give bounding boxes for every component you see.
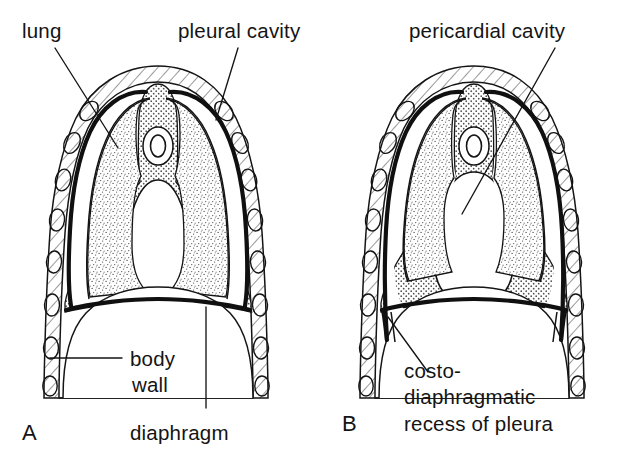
- label-recess-line2: diaphragmatic: [404, 385, 535, 408]
- label-body-wall-line2: wall: [131, 373, 168, 396]
- great-vessel-ring-b: [459, 127, 489, 165]
- label-lung: lung: [22, 19, 62, 42]
- panel-letter-a: A: [22, 420, 37, 445]
- thorax-section-diagram: lung pleural cavity pericardial cavity b…: [0, 0, 633, 460]
- panel-letter-b: B: [342, 411, 357, 436]
- label-recess-line1: costo-: [404, 359, 461, 382]
- label-recess-line3: recess of pleura: [404, 412, 553, 435]
- anatomy-figure: lung pleural cavity pericardial cavity b…: [0, 0, 633, 460]
- label-pleural-cavity: pleural cavity: [178, 19, 301, 42]
- label-body-wall-line1: body: [130, 347, 176, 370]
- label-diaphragm: diaphragm: [130, 421, 229, 444]
- great-vessel-ring-a: [143, 127, 173, 165]
- panel-b-illustration: [359, 48, 585, 400]
- label-pericardial-cavity: pericardial cavity: [409, 19, 566, 42]
